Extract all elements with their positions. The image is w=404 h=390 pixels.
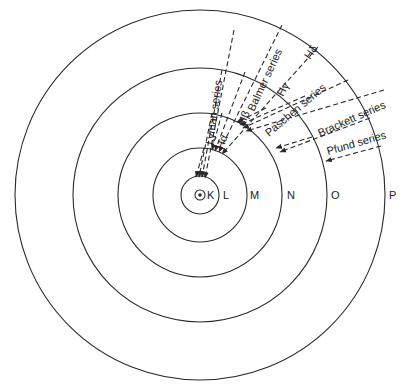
shell-label-n: N <box>287 189 295 201</box>
shell-label-p: P <box>389 189 396 201</box>
atom-shell-diagram: Lyman series Balmer series Paschen serie… <box>0 0 404 390</box>
shell-label-k: K <box>207 189 215 201</box>
h-beta-label: Hβ <box>235 109 252 127</box>
h-gamma-label: Hγ <box>274 80 291 98</box>
shell-label-m: M <box>250 189 259 201</box>
shell-label-o: O <box>331 189 340 201</box>
nucleus-icon <box>195 190 205 200</box>
h-delta-label: Hδ <box>302 43 320 61</box>
balmer-series-label: Balmer series <box>245 46 285 112</box>
shell-label-l: L <box>223 189 229 201</box>
